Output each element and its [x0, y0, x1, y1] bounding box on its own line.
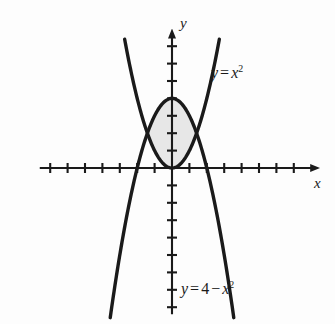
curve-lower-constant: 4 — [201, 280, 209, 297]
curve-lower-exponent: 2 — [229, 279, 234, 290]
curve-label-y-equals-x-squared: y=x2 — [211, 65, 243, 81]
figure-region-between-parabolas: y=x2 y=4−x2 x y — [0, 0, 335, 324]
curve-upper-exponent: 2 — [238, 63, 243, 74]
curve-lower-minus: − — [209, 280, 222, 297]
curve-label-y-equals-4-minus-x-squared: y=4−x2 — [181, 281, 234, 297]
curve-upper-equals: = — [218, 64, 231, 81]
curve-lower-equals: = — [188, 280, 201, 297]
plot-canvas — [0, 0, 335, 324]
x-axis-label: x — [314, 176, 321, 191]
y-axis-label: y — [180, 16, 187, 31]
